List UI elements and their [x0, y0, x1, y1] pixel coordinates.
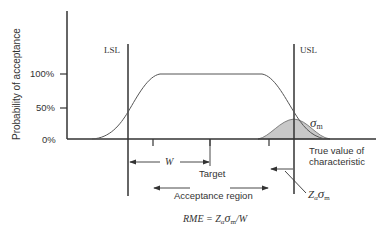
z-sigma-leader: [285, 171, 306, 193]
y-tick-50: 50%: [36, 102, 56, 113]
y-tick-100: 100%: [30, 68, 55, 79]
z-sigma-label: Zασm: [308, 186, 330, 202]
x-axis-label-1: True value of: [309, 145, 364, 156]
target-label: Target: [199, 168, 226, 179]
x-axis-label-2: characteristic: [309, 156, 365, 167]
lsl-label: LSL: [104, 45, 120, 55]
sigma-label: σm: [310, 115, 323, 131]
y-tick-0: 0%: [42, 134, 56, 145]
y-axis-label: Probability of acceptance: [11, 28, 22, 140]
usl-label: USL: [300, 45, 317, 55]
acceptance-diagram: Probability of acceptance 100% 50% 0% LS…: [0, 0, 391, 237]
acceptance-region-label: Acceptance region: [174, 190, 253, 201]
w-label: W: [165, 156, 175, 167]
rme-formula: RME = Zασm/W: [182, 211, 249, 226]
